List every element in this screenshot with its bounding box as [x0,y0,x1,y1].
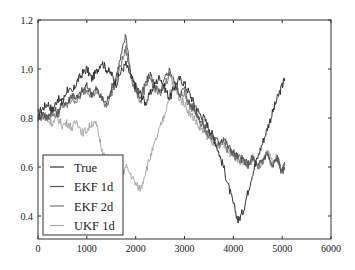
x-tick-label: 2000 [126,243,146,254]
y-tick-label: 1.0 [21,64,34,75]
x-tick-label: 0 [36,243,41,254]
legend: TrueEKF 1dEKF 2dUKF 1d [43,155,123,235]
legend-label: UKF 1d [74,219,115,233]
legend-label: True [74,161,98,175]
legend-label: EKF 2d [74,200,114,214]
y-tick-label: 0.6 [21,162,34,173]
x-tick-label: 1000 [77,243,97,254]
x-tick-label: 5000 [272,243,292,254]
y-tick-label: 0.8 [21,113,34,124]
y-tick-label: 1.2 [21,15,34,26]
legend-label: EKF 1d [74,180,114,194]
line-chart: 0100020003000400050006000 0.40.60.81.01.… [0,0,355,270]
series-line-ekf-1d [38,34,285,173]
x-tick-label: 4000 [223,243,243,254]
x-tick-label: 3000 [175,243,195,254]
y-tick-label: 0.4 [21,211,34,222]
x-tick-label: 6000 [321,243,341,254]
